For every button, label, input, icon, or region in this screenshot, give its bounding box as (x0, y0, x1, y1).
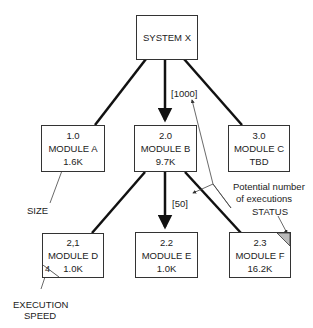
execution-speed-value: 4 (45, 263, 50, 276)
system-x-box: SYSTEM X (136, 15, 198, 60)
module-id: 2.3 (253, 236, 266, 249)
module-name: MODULE C (234, 142, 284, 155)
module-name: MODULE D (48, 249, 98, 262)
module-id: 2.0 (159, 129, 172, 142)
module-name: MODULE E (142, 249, 192, 262)
module-a-box: 1.0 MODULE A 1.6K (41, 125, 105, 172)
module-name: MODULE F (235, 249, 284, 262)
module-size: 9.7K (156, 155, 176, 168)
module-name: MODULE B (141, 142, 191, 155)
status-annotation: STATUS (252, 206, 288, 217)
system-x-label: SYSTEM X (143, 31, 191, 44)
edge-label-1000: [1000] (171, 88, 197, 99)
module-e-box: 2.2 MODULE E 1.0K (135, 232, 198, 278)
module-size: 16.2K (248, 262, 273, 275)
module-size: 1.0K (157, 262, 177, 275)
module-id: 3.0 (252, 129, 265, 142)
module-c-box: 3.0 MODULE C TBD (228, 125, 290, 172)
module-d-box: 2,1 MODULE D 1.0K 4 (42, 233, 104, 278)
module-size: TBD (250, 155, 269, 168)
module-f-box: 2.3 MODULE F 16.2K (229, 232, 291, 278)
status-corner-icon (277, 233, 290, 246)
module-b-box: 2.0 MODULE B 9.7K (134, 125, 197, 172)
size-annotation: SIZE (27, 205, 48, 216)
module-id: 2.2 (160, 236, 173, 249)
module-id: 1.0 (66, 129, 79, 142)
potential-executions-line1: Potential number (233, 181, 305, 192)
module-size: 1.0K (63, 262, 83, 275)
execution-annotation-line2: SPEED (24, 310, 56, 321)
edge-label-50: [50] (172, 198, 188, 209)
execution-annotation-line1: EXECUTION (13, 299, 68, 310)
module-id: 2,1 (66, 236, 79, 249)
module-size: 1.6K (63, 155, 83, 168)
potential-executions-line2: of executions (236, 193, 292, 204)
module-name: MODULE A (48, 142, 97, 155)
